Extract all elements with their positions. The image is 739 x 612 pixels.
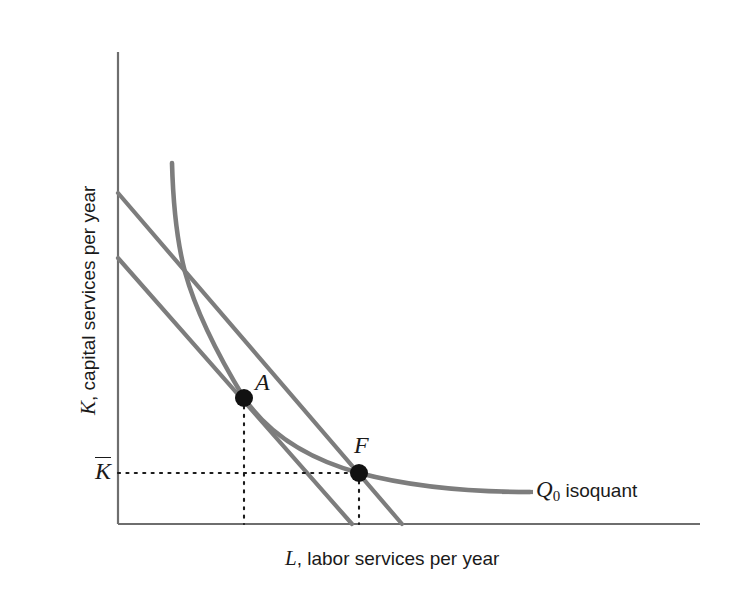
isoquant-word: isoquant — [560, 480, 637, 501]
y-axis-label: K, capital services per year — [78, 186, 99, 415]
isocost-line-steep — [118, 258, 352, 524]
isoquant-curve — [172, 163, 530, 492]
isoquant-label: Q0 isoquant — [536, 478, 637, 504]
kbar-axis-tick-label: K — [95, 457, 111, 483]
y-axis-variable: K — [76, 401, 100, 415]
kbar-variable: K — [95, 457, 111, 483]
isoquant-subscript: 0 — [553, 488, 561, 504]
isoquant-variable: Q — [536, 477, 553, 502]
x-axis-variable: L — [285, 546, 297, 570]
point-a-label: A — [255, 370, 270, 394]
isoquant-diagram-canvas — [0, 0, 739, 612]
point-f-label: F — [354, 433, 369, 457]
isoquant-figure: K, capital services per year L, labor se… — [0, 0, 739, 612]
point-f-marker — [350, 464, 368, 482]
x-axis-label: L, labor services per year — [285, 548, 499, 569]
point-a-marker — [235, 389, 253, 407]
x-axis-description: , labor services per year — [297, 548, 500, 569]
y-axis-description: , capital services per year — [78, 186, 99, 401]
